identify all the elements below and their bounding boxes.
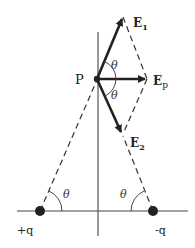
vector-e1	[97, 19, 122, 79]
angle-arc-plus-q	[49, 191, 62, 211]
dipole-field-diagram: P E1 Ep E2 θ θ θ θ +q -q	[0, 0, 195, 248]
theta-plus-q: θ	[63, 188, 70, 201]
label-minus-q: -q	[155, 224, 166, 237]
vector-e2	[97, 79, 121, 132]
label-e1: E1	[133, 16, 148, 32]
angle-arc-minus-q	[131, 191, 144, 211]
theta-upper: θ	[111, 59, 118, 72]
dashed-ep-to-e2	[123, 79, 147, 134]
theta-minus-q: θ	[120, 188, 127, 201]
label-p: P	[75, 72, 84, 87]
label-e2: E2	[130, 136, 145, 152]
charge-minus-q	[148, 206, 158, 216]
point-p	[94, 76, 100, 82]
charge-plus-q	[35, 206, 45, 216]
theta-lower: θ	[111, 89, 118, 102]
label-ep: Ep	[153, 74, 168, 90]
label-plus-q: +q	[17, 224, 33, 237]
